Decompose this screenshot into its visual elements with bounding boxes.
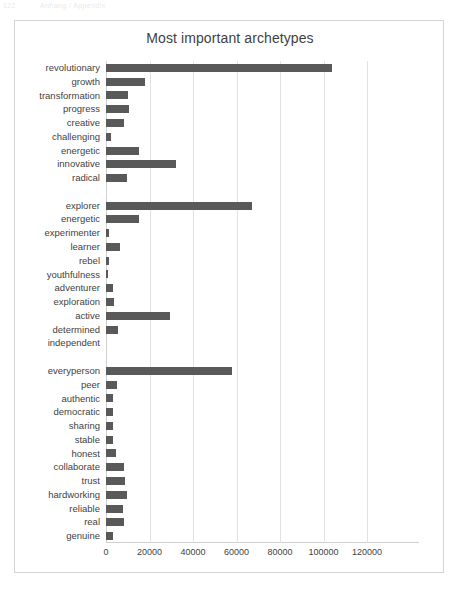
bar-active[interactable] xyxy=(106,312,170,320)
category-label-sharing: sharing xyxy=(69,419,100,433)
bar-row xyxy=(106,529,419,543)
category-label-row: active xyxy=(15,309,105,323)
bar-democratic[interactable] xyxy=(106,408,113,416)
bar-adventurer[interactable] xyxy=(106,284,113,292)
bar-growth[interactable] xyxy=(106,78,145,86)
bar-experimenter[interactable] xyxy=(106,229,109,237)
category-label-row: reliable xyxy=(15,502,105,516)
bar-determined[interactable] xyxy=(106,326,118,334)
bar-row xyxy=(106,212,419,226)
bar-rebel[interactable] xyxy=(106,257,109,265)
category-label-row: rebel xyxy=(15,254,105,268)
bar-everyperson[interactable] xyxy=(106,367,232,375)
bar-progress[interactable] xyxy=(106,105,129,113)
axis-tick-label: 0 xyxy=(103,547,108,557)
bar-row xyxy=(106,309,419,323)
bar-transformation[interactable] xyxy=(106,91,128,99)
bar-revolutionary[interactable] xyxy=(106,64,332,72)
bar-creative[interactable] xyxy=(106,119,124,127)
bar-radical[interactable] xyxy=(106,174,127,182)
category-label-adventurer: adventurer xyxy=(55,281,100,295)
bar-row xyxy=(106,378,419,392)
bar-exploration[interactable] xyxy=(106,298,114,306)
bar-row xyxy=(106,61,419,75)
category-label-democratic: democratic xyxy=(54,405,100,419)
category-label-row: peer xyxy=(15,378,105,392)
category-label-row: stable xyxy=(15,433,105,447)
bar-honest[interactable] xyxy=(106,449,116,457)
chart-frame: Most important archetypes revolutionaryg… xyxy=(14,20,444,573)
category-label-row: progress xyxy=(15,102,105,116)
bar-row xyxy=(106,157,419,171)
bar-row xyxy=(106,144,419,158)
category-label-active: active xyxy=(75,309,100,323)
category-label-row: learner xyxy=(15,240,105,254)
bar-energetic[interactable] xyxy=(106,147,139,155)
bar-real[interactable] xyxy=(106,518,124,526)
category-label-row: real xyxy=(15,515,105,529)
category-label-row: growth xyxy=(15,75,105,89)
bar-row xyxy=(106,226,419,240)
bar-authentic[interactable] xyxy=(106,394,113,402)
category-label-challenging: challenging xyxy=(52,130,100,144)
page-number-artifact: 122 xyxy=(3,2,16,9)
chart-title: Most important archetypes xyxy=(15,30,445,46)
category-label-row: challenging xyxy=(15,130,105,144)
category-label-rebel: rebel xyxy=(79,254,100,268)
category-label-row: explorer xyxy=(15,199,105,213)
category-label-row: trust xyxy=(15,474,105,488)
category-label-row: determined xyxy=(15,323,105,337)
bar-row xyxy=(106,116,419,130)
category-label-radical: radical xyxy=(72,171,100,185)
bar-sharing[interactable] xyxy=(106,422,113,430)
axis-tick-label: 80000 xyxy=(267,547,292,557)
category-label-row: honest xyxy=(15,447,105,461)
bar-row xyxy=(106,392,419,406)
bar-hardworking[interactable] xyxy=(106,491,127,499)
bar-learner[interactable] xyxy=(106,243,120,251)
bar-row xyxy=(106,350,419,364)
category-label-innovative: innovative xyxy=(57,157,100,171)
bar-row xyxy=(106,515,419,529)
category-label-transformation: transformation xyxy=(39,89,100,103)
category-label-row: authentic xyxy=(15,392,105,406)
bar-challenging[interactable] xyxy=(106,133,111,141)
category-label-everyperson: everyperson xyxy=(48,364,100,378)
category-label-collaborate: collaborate xyxy=(54,460,100,474)
category-label-progress: progress xyxy=(63,102,100,116)
category-label-row: energetic xyxy=(15,212,105,226)
plot-wrapper: revolutionarygrowthtransformationprogres… xyxy=(15,61,443,573)
category-axis-labels: revolutionarygrowthtransformationprogres… xyxy=(15,61,105,543)
bar-row xyxy=(106,323,419,337)
bar-row xyxy=(106,281,419,295)
category-label-experimenter: experimenter xyxy=(45,226,100,240)
bar-energetic[interactable] xyxy=(106,215,139,223)
category-label-row xyxy=(15,185,105,199)
category-label-row: energetic xyxy=(15,144,105,158)
axis-tick-label: 100000 xyxy=(308,547,338,557)
axis-tick-label: 120000 xyxy=(352,547,382,557)
bar-explorer[interactable] xyxy=(106,202,252,210)
bar-collaborate[interactable] xyxy=(106,463,124,471)
category-label-learner: learner xyxy=(70,240,100,254)
bar-youthfulness[interactable] xyxy=(106,270,108,278)
category-label-row: everyperson xyxy=(15,364,105,378)
bar-row xyxy=(106,364,419,378)
bar-trust[interactable] xyxy=(106,477,125,485)
category-label-hardworking: hardworking xyxy=(48,488,100,502)
axis-tick-label: 40000 xyxy=(180,547,205,557)
category-label-determined: determined xyxy=(52,323,100,337)
category-label-row: independent xyxy=(15,336,105,350)
bar-row xyxy=(106,502,419,516)
plot-area xyxy=(106,61,419,543)
bar-reliable[interactable] xyxy=(106,505,123,513)
category-label-energetic: energetic xyxy=(61,144,100,158)
category-label-row: collaborate xyxy=(15,460,105,474)
category-label-genuine: genuine xyxy=(66,529,100,543)
bar-genuine[interactable] xyxy=(106,532,113,540)
category-label-reliable: reliable xyxy=(69,502,100,516)
bar-stable[interactable] xyxy=(106,436,113,444)
bar-innovative[interactable] xyxy=(106,160,176,168)
bar-peer[interactable] xyxy=(106,381,117,389)
category-label-youthfulness: youthfulness xyxy=(47,268,100,282)
